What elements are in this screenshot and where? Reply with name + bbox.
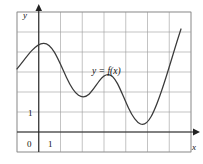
- y-axis-label: y: [22, 10, 27, 20]
- origin-label: 0: [27, 139, 32, 149]
- x-tick-label-1: 1: [48, 139, 53, 149]
- graph-canvas: y x 0 1 1 y = f(x): [0, 0, 203, 164]
- x-axis-label: x: [191, 142, 196, 152]
- function-annotation: y = f(x): [91, 66, 121, 77]
- function-graph-figure: y x 0 1 1 y = f(x): [0, 0, 203, 164]
- y-tick-label-1: 1: [28, 108, 33, 118]
